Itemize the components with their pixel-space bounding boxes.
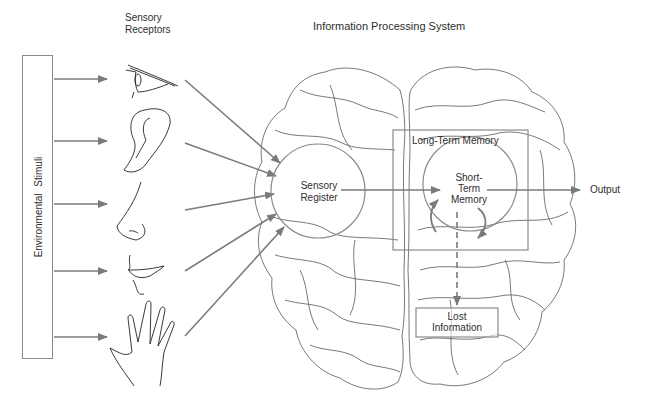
heading-line-1: Sensory xyxy=(125,12,171,24)
stimuli-arrows xyxy=(54,79,107,337)
mouth-icon xyxy=(128,255,164,294)
lost-info-line-1: Lost xyxy=(416,311,498,322)
stm-line-1: Short- xyxy=(442,172,496,183)
diagram-title: Information Processing System xyxy=(313,20,465,32)
sensory-register-line-2: Register xyxy=(295,192,343,204)
environmental-stimuli-box: Environmental Stimuli xyxy=(22,55,53,359)
lost-information-label: Lost Information xyxy=(416,311,498,333)
environmental-stimuli-label: Environmental Stimuli xyxy=(32,157,43,258)
sensory-register-label: Sensory Register xyxy=(295,180,343,204)
ear-icon xyxy=(124,109,170,172)
output-label: Output xyxy=(590,184,620,196)
diagram-canvas xyxy=(0,0,648,412)
rehearsal-loop-right xyxy=(478,208,486,238)
lost-info-line-2: Information xyxy=(416,322,498,333)
hand-icon xyxy=(110,301,174,386)
nose-icon xyxy=(117,182,145,240)
long-term-memory-label: Long-Term Memory xyxy=(412,135,499,147)
short-term-memory-label: Short- Term Memory xyxy=(442,172,496,205)
heading-line-2: Receptors xyxy=(125,24,171,36)
stm-line-3: Memory xyxy=(442,194,496,205)
eye-icon xyxy=(126,65,178,98)
stm-line-2: Term xyxy=(442,183,496,194)
receptor-arrows xyxy=(185,80,284,336)
sensory-register-line-1: Sensory xyxy=(295,180,343,192)
sensory-receptors-heading: Sensory Receptors xyxy=(125,12,171,36)
